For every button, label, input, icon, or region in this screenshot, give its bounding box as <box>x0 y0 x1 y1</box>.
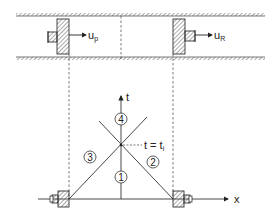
region-1: 1 <box>115 171 127 183</box>
tube-bottom-wall <box>16 57 265 60</box>
region-2: 2 <box>147 156 159 168</box>
svg-text:3: 3 <box>87 152 93 163</box>
wave-line-right <box>99 121 173 199</box>
t-axis-label: t <box>126 91 129 103</box>
left-piston-bottom <box>50 191 69 207</box>
x-axis-label: x <box>234 193 240 205</box>
left-piston <box>48 19 69 54</box>
tube-top-wall <box>16 13 265 16</box>
svg-text:1: 1 <box>118 172 124 183</box>
right-piston-velocity-label: uR <box>214 29 225 42</box>
svg-text:4: 4 <box>118 114 124 125</box>
intersection-point <box>120 144 123 147</box>
right-piston-bottom <box>173 191 192 207</box>
left-piston-velocity-label: up <box>88 29 98 43</box>
right-piston <box>173 19 195 54</box>
wave-line-left <box>69 117 147 199</box>
intersection-label: t = ti <box>144 139 165 152</box>
region-4: 4 <box>115 113 127 125</box>
piston-wave-diagram: up uR x t t = ti 1 2 3 4 <box>0 0 277 220</box>
svg-text:2: 2 <box>150 157 156 168</box>
region-3: 3 <box>84 151 96 163</box>
